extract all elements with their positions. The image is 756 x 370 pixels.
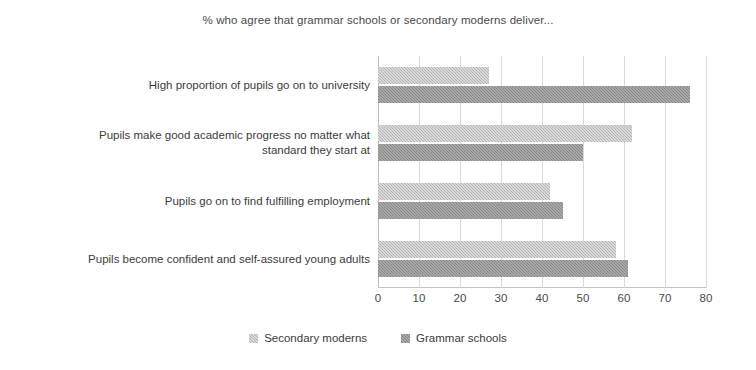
category-label-line: Pupils become confident and self-assured… bbox=[38, 252, 370, 267]
category-label: Pupils go on to find fulfilling employme… bbox=[38, 194, 378, 209]
bar-secondary-moderns bbox=[378, 67, 489, 84]
category-label-line: High proportion of pupils go on to unive… bbox=[38, 78, 370, 93]
bar-grammar-schools bbox=[378, 144, 583, 161]
x-tick-label: 80 bbox=[700, 292, 713, 304]
category-label-line: Pupils go on to find fulfilling employme… bbox=[38, 194, 370, 209]
bar-grammar-schools bbox=[378, 260, 628, 277]
legend-swatch-icon bbox=[249, 334, 258, 343]
legend-swatch-icon bbox=[401, 334, 410, 343]
x-axis-tick-labels: 01020304050607080 bbox=[378, 292, 706, 312]
bar-chart: % who agree that grammar schools or seco… bbox=[0, 0, 756, 370]
category-label-line: standard they start at bbox=[38, 143, 370, 158]
bar-secondary-moderns bbox=[378, 125, 632, 142]
bar-secondary-moderns bbox=[378, 183, 550, 200]
bar-grammar-schools bbox=[378, 202, 563, 219]
bar-secondary-moderns bbox=[378, 241, 616, 258]
category-label: Pupils become confident and self-assured… bbox=[38, 252, 378, 267]
x-tick-label: 70 bbox=[659, 292, 672, 304]
legend-item[interactable]: Grammar schools bbox=[401, 332, 507, 344]
legend-item[interactable]: Secondary moderns bbox=[249, 332, 367, 344]
legend-label: Secondary moderns bbox=[264, 332, 367, 344]
chart-legend: Secondary modernsGrammar schools bbox=[0, 332, 756, 344]
x-tick-label: 60 bbox=[618, 292, 631, 304]
x-tick-label: 40 bbox=[536, 292, 549, 304]
plot-area bbox=[378, 56, 706, 288]
chart-title: % who agree that grammar schools or seco… bbox=[0, 14, 756, 26]
x-tick-label: 0 bbox=[375, 292, 381, 304]
category-axis-labels: High proportion of pupils go on to unive… bbox=[30, 56, 378, 288]
category-label: High proportion of pupils go on to unive… bbox=[38, 78, 378, 93]
category-label: Pupils make good academic progress no ma… bbox=[38, 128, 378, 158]
bar-grammar-schools bbox=[378, 86, 690, 103]
x-tick-label: 50 bbox=[577, 292, 590, 304]
category-label-line: Pupils make good academic progress no ma… bbox=[38, 128, 370, 143]
x-tick-label: 30 bbox=[495, 292, 508, 304]
x-tick-label: 10 bbox=[413, 292, 426, 304]
x-tick-label: 20 bbox=[454, 292, 467, 304]
gridline bbox=[706, 56, 707, 288]
legend-label: Grammar schools bbox=[416, 332, 507, 344]
